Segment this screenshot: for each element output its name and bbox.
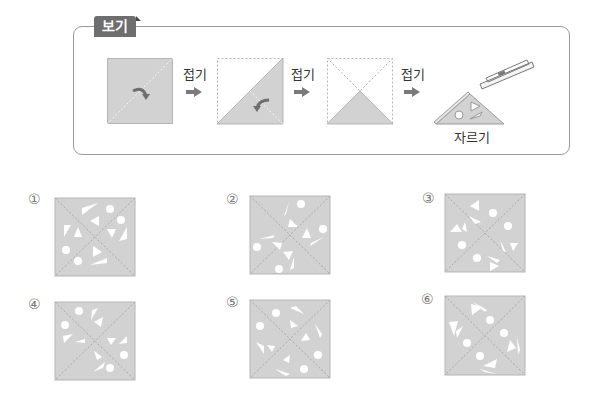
option-number-5[interactable]: ⑤ bbox=[226, 294, 239, 310]
option-1-pattern[interactable] bbox=[55, 198, 135, 276]
fold-step-1-square bbox=[107, 58, 173, 124]
option-5-pattern[interactable] bbox=[250, 300, 330, 378]
fold-label-2: 접기 bbox=[291, 64, 315, 83]
option-number-4[interactable]: ④ bbox=[28, 296, 41, 312]
right-arrow-icon bbox=[294, 87, 310, 97]
option-4-pattern[interactable] bbox=[55, 302, 135, 380]
option-number-1[interactable]: ① bbox=[28, 191, 41, 207]
option-6-pattern[interactable] bbox=[445, 296, 525, 375]
fold-step-3-triangle bbox=[327, 58, 393, 124]
right-arrow-icon bbox=[186, 87, 202, 97]
fold-label-1: 접기 bbox=[183, 64, 207, 83]
option-number-6[interactable]: ⑥ bbox=[421, 291, 434, 307]
option-number-2[interactable]: ② bbox=[226, 191, 239, 207]
fold-step-2-triangle bbox=[217, 58, 283, 124]
cut-step-triangle bbox=[434, 54, 544, 126]
right-arrow-icon bbox=[404, 87, 420, 97]
fold-label-3: 접기 bbox=[401, 64, 425, 83]
option-2-pattern[interactable] bbox=[250, 196, 330, 274]
example-tag: 보기 bbox=[94, 16, 136, 37]
cut-label: 자르기 bbox=[454, 127, 490, 146]
option-3-pattern[interactable] bbox=[445, 194, 525, 272]
option-number-3[interactable]: ③ bbox=[422, 190, 435, 206]
